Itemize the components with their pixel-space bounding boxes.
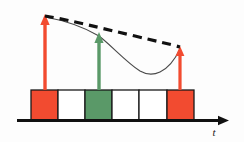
time-axis-arrowhead [218, 116, 229, 125]
box-1-red [31, 90, 58, 120]
figure-root: t [0, 0, 244, 142]
dashed-envelope-curve [45, 16, 180, 47]
thin-response-curve [45, 17, 180, 74]
box-2-white [58, 90, 85, 120]
pulse-arrow-3-red [176, 46, 185, 90]
pulse-arrow-2-green [94, 32, 103, 90]
pulse-arrow-1-red [40, 14, 49, 90]
box-5-white [139, 90, 167, 120]
box-row [31, 90, 194, 120]
box-4-white [112, 90, 139, 120]
time-axis-label: t [212, 126, 216, 138]
signal-pulse-diagram-svg: t [0, 0, 244, 142]
box-6-red [167, 90, 194, 120]
box-3-green [85, 90, 112, 120]
